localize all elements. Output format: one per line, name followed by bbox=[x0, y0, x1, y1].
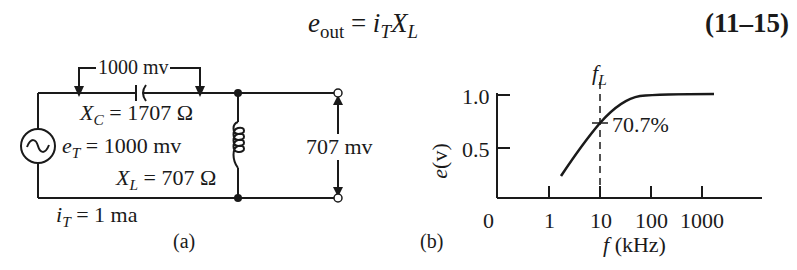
source-voltage-label: eT = 1000 mv bbox=[62, 133, 181, 162]
output-voltage-label: 707 mv bbox=[306, 134, 373, 160]
point-label: 70.7% bbox=[612, 112, 669, 138]
junction-dot bbox=[234, 89, 242, 97]
ytick-05: 0.5 bbox=[462, 137, 490, 163]
inductor-icon bbox=[234, 122, 245, 168]
output-terminal bbox=[334, 194, 342, 202]
ytick-1: 1.0 bbox=[462, 84, 490, 110]
graph-axes bbox=[497, 93, 762, 198]
xtick-1: 1 bbox=[544, 208, 555, 234]
current-label: iT = 1 ma bbox=[56, 202, 137, 231]
capacitive-reactance-label: XC = 1707 Ω bbox=[80, 100, 193, 129]
input-voltage-label: 1000 mv bbox=[98, 56, 169, 79]
caption-a: (a) bbox=[173, 230, 195, 253]
xtick-0: 0 bbox=[483, 208, 494, 234]
xtick-1000: 1000 bbox=[680, 208, 724, 234]
junction-dot bbox=[234, 194, 242, 202]
caption-b: (b) bbox=[420, 230, 443, 253]
output-terminal bbox=[334, 89, 342, 97]
y-axis-label: e(v) bbox=[427, 143, 453, 178]
xtick-100: 100 bbox=[635, 208, 668, 234]
xtick-10: 10 bbox=[590, 208, 612, 234]
cutoff-frequency-label: fL bbox=[592, 60, 607, 89]
x-axis-label: f (kHz) bbox=[603, 232, 666, 258]
inductive-reactance-label: XL = 707 Ω bbox=[116, 165, 216, 194]
ac-source-icon bbox=[21, 129, 55, 163]
